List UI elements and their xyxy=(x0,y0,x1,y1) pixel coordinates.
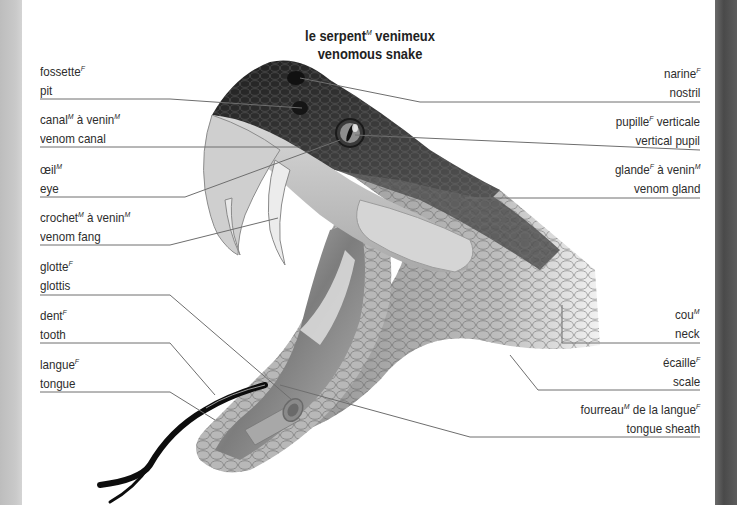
french-term: écaille xyxy=(663,355,696,370)
english-term: tooth xyxy=(40,325,67,344)
label-french: dentF xyxy=(40,306,67,325)
english-term: eye xyxy=(40,179,62,198)
label-french: écailleF xyxy=(663,353,700,372)
label-scale: écailleF scale xyxy=(663,353,700,391)
label-french: fossetteF xyxy=(40,62,85,81)
french-term-rest: de la langue xyxy=(629,402,696,417)
gender-marker: M xyxy=(124,210,130,219)
label-french: crochetM à veninM xyxy=(40,208,130,227)
french-term: canal xyxy=(40,112,68,127)
french-term: pupille xyxy=(616,114,650,129)
label-pit: fossetteF pit xyxy=(40,62,85,100)
french-term-rest: à venin xyxy=(84,210,125,225)
english-term: venom fang xyxy=(40,227,130,246)
french-term-rest: à venin xyxy=(654,162,695,177)
gender-marker: F xyxy=(696,355,700,364)
label-french: glotteF xyxy=(40,257,73,276)
french-term: glande xyxy=(615,162,650,177)
english-term: glottis xyxy=(40,276,73,295)
french-term: glotte xyxy=(40,259,68,274)
label-eye: œilM eye xyxy=(40,160,62,198)
label-vertical-pupil: pupilleF verticale vertical pupil xyxy=(616,112,700,150)
french-term: fourreau xyxy=(580,402,623,417)
gender-marker: F xyxy=(696,66,700,75)
label-french: fourreauM de la langueF xyxy=(580,400,700,419)
label-tongue-sheath: fourreauM de la langueF tongue sheath xyxy=(580,400,700,438)
label-venom-gland: glandeF à veninM venom gland xyxy=(615,160,700,198)
french-term-rest: à venin xyxy=(73,112,114,127)
gender-marker: F xyxy=(81,64,85,73)
gender-marker: M xyxy=(56,162,62,171)
label-french: œilM xyxy=(40,160,62,179)
label-venom-fang: crochetM à veninM venom fang xyxy=(40,208,130,246)
english-term: nostril xyxy=(664,83,700,102)
label-french: canalM à veninM xyxy=(40,110,120,129)
label-french: narineF xyxy=(664,64,700,83)
label-neck: couM neck xyxy=(675,305,700,343)
gender-marker: M xyxy=(114,112,120,121)
french-term: œil xyxy=(40,162,56,177)
french-term: fossette xyxy=(40,64,81,79)
gender-marker: F xyxy=(696,402,700,411)
gender-marker: M xyxy=(624,402,630,411)
leader-nostril xyxy=(300,78,700,102)
gender-marker: M xyxy=(694,307,700,316)
label-french: couM xyxy=(675,305,700,324)
label-glottis: glotteF glottis xyxy=(40,257,73,295)
french-term: crochet xyxy=(40,210,78,225)
gender-marker: F xyxy=(68,259,72,268)
french-term: dent xyxy=(40,308,63,323)
gender-marker: M xyxy=(694,162,700,171)
english-term: venom gland xyxy=(615,179,700,198)
french-term-rest: verticale xyxy=(654,114,700,129)
venom-fang xyxy=(268,160,290,265)
label-tooth: dentF tooth xyxy=(40,306,67,344)
english-term: tongue sheath xyxy=(580,419,700,438)
english-term: scale xyxy=(663,372,700,391)
label-nostril: narineF nostril xyxy=(664,64,700,102)
label-french: pupilleF verticale xyxy=(616,112,700,131)
english-term: pit xyxy=(40,81,85,100)
gender-marker: F xyxy=(63,308,67,317)
gender-marker: F xyxy=(75,357,79,366)
label-tongue: langueF tongue xyxy=(40,355,79,393)
english-term: venom canal xyxy=(40,129,120,148)
english-term: neck xyxy=(675,324,700,343)
label-venom-canal: canalM à veninM venom canal xyxy=(40,110,120,148)
french-term: narine xyxy=(664,66,696,81)
leader-tongue xyxy=(40,392,215,420)
label-french: glandeF à veninM xyxy=(615,160,700,179)
english-term: tongue xyxy=(40,374,79,393)
french-term: cou xyxy=(676,307,695,322)
english-term: vertical pupil xyxy=(616,131,700,150)
french-term: langue xyxy=(40,357,75,372)
label-french: langueF xyxy=(40,355,79,374)
eye-highlight xyxy=(352,124,358,132)
